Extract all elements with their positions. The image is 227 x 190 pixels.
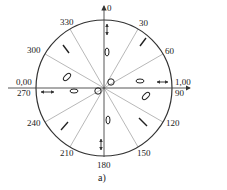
polar-orientation-diagram: 0 1,00 90 0,00 270 180 30 60 120 150 210…: [0, 0, 227, 190]
label-angle-300: 300: [27, 45, 41, 55]
radial-line-300: [45, 54, 104, 88]
radial-line-210: [70, 88, 104, 147]
label-right-lower: 90: [175, 88, 185, 98]
label-angle-330: 330: [60, 17, 74, 27]
figure-caption: a): [98, 172, 106, 184]
label-angle-150: 150: [137, 148, 151, 158]
ellipse-horizontal-right-icon: [136, 79, 144, 83]
label-bottom-180: 180: [97, 160, 111, 170]
radial-line-60: [104, 54, 163, 88]
label-left-upper: 0,00: [16, 77, 32, 87]
small-circle-lower-left-icon: [95, 88, 101, 94]
radial-line-120: [104, 88, 163, 122]
label-angle-240: 240: [27, 118, 41, 128]
radial-line-330: [70, 29, 104, 88]
radial-line-150: [104, 88, 138, 147]
ellipse-horizontal-left-icon: [70, 89, 78, 93]
bar-30-60-icon: [140, 38, 146, 46]
label-angle-210: 210: [60, 148, 74, 158]
label-right-upper: 1,00: [175, 77, 191, 87]
ellipse-tilted-right-icon: [141, 91, 151, 101]
bar-210-240-icon: [61, 122, 68, 130]
label-angle-30: 30: [139, 18, 149, 28]
label-angle-60: 60: [165, 46, 175, 56]
bar-120-150-icon: [139, 118, 147, 126]
ellipse-tilted-left-icon: [62, 72, 72, 82]
bar-300-330-icon: [63, 45, 69, 53]
label-top-0: 0: [107, 3, 112, 13]
label-angle-120: 120: [166, 118, 180, 128]
label-left-lower: 270: [17, 88, 31, 98]
ellipse-vertical-top-icon: [105, 48, 109, 56]
ellipse-vertical-bottom-icon: [106, 116, 110, 124]
